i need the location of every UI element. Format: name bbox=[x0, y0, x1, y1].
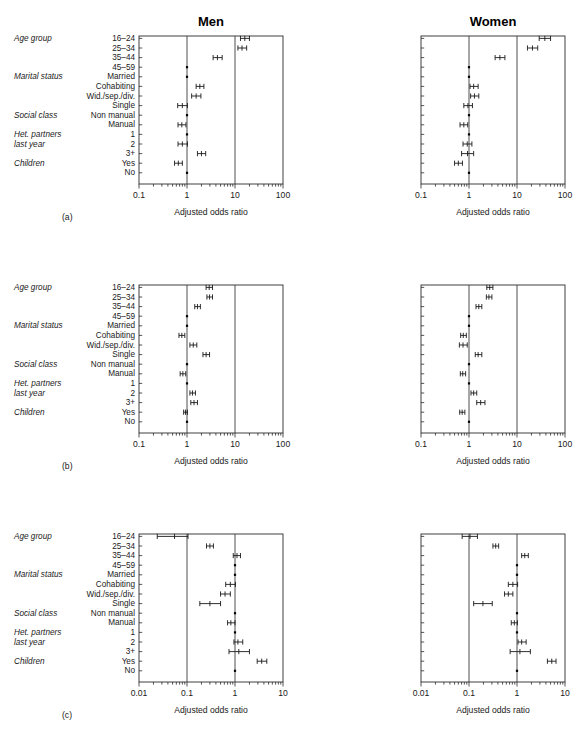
x-tick-label: 0.1 bbox=[133, 190, 145, 200]
row-level-label: 1 bbox=[130, 379, 135, 388]
x-tick-label: 100 bbox=[276, 190, 291, 200]
reference-point-marker bbox=[186, 66, 188, 68]
row-group-label: Marital status bbox=[14, 570, 63, 579]
row-level-label: Cohabiting bbox=[96, 331, 136, 340]
row-level-label: 1 bbox=[130, 628, 135, 637]
x-tick-label: 10 bbox=[512, 439, 522, 449]
row-level-label: 45–59 bbox=[112, 312, 135, 321]
subplot-women: 0.010.1110Adjusted odds ratio bbox=[413, 534, 570, 715]
row-level-label: No bbox=[125, 666, 136, 675]
row-level-label: 45–59 bbox=[112, 561, 135, 570]
row-level-label: 25–34 bbox=[112, 293, 135, 302]
x-axis-label: Adjusted odds ratio bbox=[174, 705, 248, 715]
row-level-label: Cohabiting bbox=[96, 82, 136, 91]
x-axis-label: Adjusted odds ratio bbox=[456, 456, 530, 466]
row-level-label: Yes bbox=[122, 159, 135, 168]
row-level-label: No bbox=[125, 168, 136, 177]
row-group-label: Social class bbox=[14, 111, 57, 120]
row-level-label: Wid./sep./div. bbox=[86, 590, 135, 599]
row-level-label: Single bbox=[112, 101, 135, 110]
row-level-label: 35–44 bbox=[112, 53, 135, 62]
reference-point-marker bbox=[468, 382, 470, 384]
row-level-label: No bbox=[125, 417, 136, 426]
x-tick-label: 0.01 bbox=[413, 688, 430, 698]
x-tick-label: 1 bbox=[515, 688, 520, 698]
panel-letter: (c) bbox=[62, 710, 72, 720]
row-level-label: Non manual bbox=[91, 360, 135, 369]
column-title-men: Men bbox=[198, 14, 224, 29]
x-tick-label: 1 bbox=[467, 190, 472, 200]
row-level-label: Manual bbox=[108, 618, 135, 627]
reference-point-marker bbox=[516, 631, 518, 633]
plot-frame bbox=[139, 36, 283, 184]
reference-point-marker bbox=[186, 421, 188, 423]
x-tick-label: 1 bbox=[467, 439, 472, 449]
row-level-label: Cohabiting bbox=[96, 580, 136, 589]
x-tick-label: 0.1 bbox=[415, 439, 427, 449]
x-tick-label: 1 bbox=[185, 190, 190, 200]
x-tick-label: 1 bbox=[233, 688, 238, 698]
row-group-label: last year bbox=[14, 389, 45, 398]
plot-frame bbox=[421, 36, 565, 184]
row-group-label: last year bbox=[14, 140, 45, 149]
row-level-label: 35–44 bbox=[112, 302, 135, 311]
forest-plot-figure: MenWomenAge group16–2425–3435–4445–59Mar… bbox=[0, 0, 573, 748]
row-level-label: Manual bbox=[108, 120, 135, 129]
x-axis-label: Adjusted odds ratio bbox=[174, 456, 248, 466]
row-level-label: 25–34 bbox=[112, 542, 135, 551]
reference-point-marker bbox=[234, 670, 236, 672]
x-tick-label: 100 bbox=[276, 439, 291, 449]
row-level-label: Yes bbox=[122, 408, 135, 417]
row-level-label: Married bbox=[107, 72, 135, 81]
x-tick-label: 0.1 bbox=[181, 688, 193, 698]
row-group-label: Age group bbox=[13, 283, 52, 292]
subplot-men: 0.010.1110Adjusted odds ratio bbox=[131, 534, 288, 715]
row-level-label: Wid./sep./div. bbox=[86, 341, 135, 350]
reference-point-marker bbox=[468, 76, 470, 78]
x-tick-label: 0.1 bbox=[463, 688, 475, 698]
row-level-label: Non manual bbox=[91, 609, 135, 618]
panel-c: Age group16–2425–3435–4445–59Marital sta… bbox=[0, 498, 573, 747]
column-title-women: Women bbox=[470, 14, 517, 29]
subplot-men: 0.1110100Adjusted odds ratio bbox=[133, 36, 290, 217]
row-group-label: Age group bbox=[13, 532, 52, 541]
row-group-label: Marital status bbox=[14, 321, 63, 330]
plot-frame bbox=[421, 285, 565, 433]
reference-point-marker bbox=[186, 363, 188, 365]
x-axis-label: Adjusted odds ratio bbox=[174, 207, 248, 217]
panel-a: MenWomenAge group16–2425–3435–4445–59Mar… bbox=[0, 0, 573, 249]
x-axis-label: Adjusted odds ratio bbox=[456, 705, 530, 715]
x-tick-label: 100 bbox=[558, 439, 573, 449]
row-level-label: 35–44 bbox=[112, 551, 135, 560]
x-tick-label: 10 bbox=[560, 688, 570, 698]
reference-point-marker bbox=[468, 421, 470, 423]
reference-point-marker bbox=[468, 172, 470, 174]
row-level-label: Married bbox=[107, 570, 135, 579]
reference-point-marker bbox=[516, 670, 518, 672]
x-tick-label: 10 bbox=[278, 688, 288, 698]
reference-point-marker bbox=[468, 66, 470, 68]
reference-point-marker bbox=[468, 315, 470, 317]
reference-point-marker bbox=[234, 631, 236, 633]
reference-point-marker bbox=[468, 325, 470, 327]
row-group-label: Het. partners bbox=[14, 130, 61, 139]
reference-point-marker bbox=[186, 325, 188, 327]
x-tick-label: 0.01 bbox=[131, 688, 148, 698]
panel-letter: (b) bbox=[62, 461, 73, 471]
reference-point-marker bbox=[186, 76, 188, 78]
reference-point-marker bbox=[468, 114, 470, 116]
row-level-label: Single bbox=[112, 350, 135, 359]
row-level-label: Manual bbox=[108, 369, 135, 378]
x-tick-label: 1 bbox=[185, 439, 190, 449]
row-level-label: 16–24 bbox=[112, 532, 135, 541]
row-group-label: Het. partners bbox=[14, 379, 61, 388]
row-level-label: 1 bbox=[130, 130, 135, 139]
reference-point-marker bbox=[186, 133, 188, 135]
row-group-label: Het. partners bbox=[14, 628, 61, 637]
reference-point-marker bbox=[234, 612, 236, 614]
row-group-label: Social class bbox=[14, 360, 57, 369]
reference-point-marker bbox=[516, 574, 518, 576]
row-level-label: 16–24 bbox=[112, 283, 135, 292]
panel-c-svg: Age group16–2425–3435–4445–59Marital sta… bbox=[0, 498, 573, 747]
row-level-label: 2 bbox=[130, 140, 135, 149]
